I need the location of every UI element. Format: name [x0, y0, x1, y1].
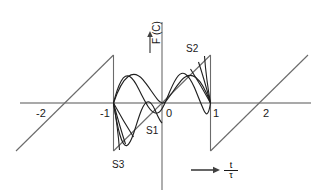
x-tick-label-2: 2 — [263, 108, 269, 119]
y-axis-label: F (C) — [152, 21, 162, 44]
curve-label-s3: S3 — [112, 160, 124, 170]
curve-label-s1: S1 — [146, 126, 158, 136]
x-axis-label-numerator: t — [224, 161, 238, 170]
x-tick-label-neg2: -2 — [36, 108, 46, 119]
x-tick-label-1: 1 — [213, 108, 219, 119]
sawtooth-fourier-figure: -2 -1 0 1 2 S1 S2 S3 F (C) t τ — [0, 0, 329, 196]
curve-s3-negative-half — [114, 102, 163, 146]
x-axis-label-denominator: τ — [224, 170, 238, 180]
curve-label-s2: S2 — [186, 44, 198, 54]
plot-canvas — [0, 0, 329, 196]
x-tick-label-0: 0 — [166, 108, 172, 119]
x-tick-label-neg1: -1 — [100, 108, 110, 119]
right-arrow-icon — [191, 167, 220, 173]
x-axis-label: t τ — [224, 161, 238, 181]
